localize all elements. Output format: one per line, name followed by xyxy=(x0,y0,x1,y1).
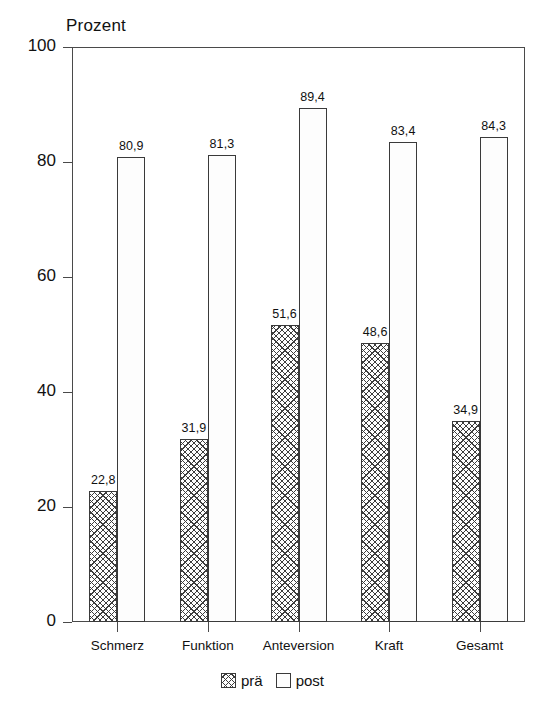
bar-value-label: 80,9 xyxy=(119,139,144,153)
bar-post xyxy=(299,108,327,622)
y-axis-tick-label: 0 xyxy=(47,611,56,631)
legend-label-post: post xyxy=(296,672,324,689)
chart-legend: prä post xyxy=(0,672,545,689)
x-axis-category-label: Funktion xyxy=(182,638,234,653)
x-axis-category-label: Anteversion xyxy=(263,638,334,653)
y-axis-tick-mark xyxy=(63,47,72,48)
bar-value-label: 34,9 xyxy=(453,403,478,417)
x-axis-tick xyxy=(117,622,118,632)
bar-pre xyxy=(180,439,208,622)
legend-entry-pre: prä xyxy=(221,672,263,689)
legend-entry-post: post xyxy=(276,672,324,689)
bar-value-label: 89,4 xyxy=(300,90,325,104)
y-axis-tick-label: 20 xyxy=(37,496,56,516)
y-axis-tick-label: 40 xyxy=(37,381,56,401)
bar-value-label: 81,3 xyxy=(210,137,235,151)
y-axis-tick-label: 100 xyxy=(28,36,56,56)
bar-pre xyxy=(271,325,299,622)
bar-value-label: 84,3 xyxy=(481,119,506,133)
bar-pre xyxy=(361,343,389,622)
x-axis-tick xyxy=(208,622,209,632)
bar-value-label: 22,8 xyxy=(91,473,116,487)
bar-post xyxy=(208,155,236,622)
x-axis-tick xyxy=(389,622,390,632)
bar-chart: Prozent 020406080100 SchmerzFunktionAnte… xyxy=(0,0,545,705)
x-axis-category-label: Kraft xyxy=(375,638,404,653)
bar-value-label: 83,4 xyxy=(391,124,416,138)
x-axis-category-label: Schmerz xyxy=(91,638,144,653)
x-axis-tick xyxy=(480,622,481,632)
bar-value-label: 31,9 xyxy=(182,421,207,435)
x-axis-tick xyxy=(299,622,300,632)
y-axis-tick-mark xyxy=(63,507,72,508)
bar-value-label: 48,6 xyxy=(363,325,388,339)
bar-post xyxy=(480,137,508,622)
y-axis-tick-label: 60 xyxy=(37,266,56,286)
y-axis-tick-mark xyxy=(63,277,72,278)
bar-post xyxy=(117,157,145,622)
y-axis-tick-mark xyxy=(63,162,72,163)
bar-pre xyxy=(452,421,480,622)
x-axis-category-label: Gesamt xyxy=(456,638,503,653)
y-axis-tick-label: 80 xyxy=(37,151,56,171)
y-axis-title: Prozent xyxy=(66,16,126,36)
legend-swatch-post-icon xyxy=(276,673,291,688)
legend-swatch-pre-icon xyxy=(221,673,236,688)
bar-pre xyxy=(89,491,117,622)
y-axis-tick-mark xyxy=(63,392,72,393)
y-axis-tick-mark xyxy=(63,622,72,623)
legend-label-pre: prä xyxy=(241,672,263,689)
bar-post xyxy=(389,142,417,622)
bar-value-label: 51,6 xyxy=(272,307,297,321)
